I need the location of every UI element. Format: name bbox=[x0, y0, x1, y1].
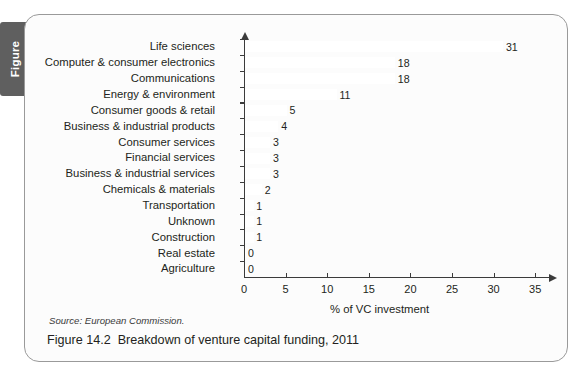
y-axis-tick bbox=[240, 182, 245, 183]
y-axis-tick bbox=[240, 198, 245, 199]
figure-caption-number: Figure 14.2 bbox=[47, 333, 111, 347]
x-axis-tick-label: 20 bbox=[404, 284, 416, 295]
y-axis-tick bbox=[240, 55, 245, 56]
category-label: Business & industrial products bbox=[64, 121, 215, 132]
y-axis-tick bbox=[240, 245, 245, 246]
category-label: Construction bbox=[152, 232, 215, 243]
bar-value-label: 1 bbox=[256, 216, 262, 227]
bar bbox=[245, 137, 270, 148]
x-axis-tick bbox=[494, 273, 495, 278]
x-axis-line bbox=[244, 277, 549, 278]
y-axis-tick bbox=[240, 150, 245, 151]
y-axis-tick bbox=[240, 261, 245, 262]
bar bbox=[245, 41, 503, 52]
bar-value-label: 1 bbox=[256, 232, 262, 243]
source-note: Source: European Commission. bbox=[49, 315, 184, 326]
x-axis-tick bbox=[410, 273, 411, 278]
x-axis-tick-label: 35 bbox=[529, 284, 541, 295]
bar-value-label: 5 bbox=[290, 105, 296, 116]
figure-caption-title: Breakdown of venture capital funding, 20… bbox=[118, 333, 359, 347]
y-axis-tick bbox=[240, 166, 245, 167]
bar bbox=[245, 121, 278, 132]
bar-value-label: 3 bbox=[273, 169, 279, 180]
category-label: Financial services bbox=[125, 152, 215, 163]
x-axis-tick-label: 10 bbox=[321, 284, 333, 295]
bar bbox=[245, 73, 395, 84]
bar-value-label: 11 bbox=[340, 90, 351, 101]
category-label: Agriculture bbox=[161, 263, 215, 274]
y-axis-tick bbox=[240, 214, 245, 215]
category-label: Energy & environment bbox=[103, 89, 215, 100]
bar bbox=[245, 248, 246, 259]
bar-chart: Life sciencesComputer & consumer electro… bbox=[25, 15, 569, 363]
category-label: Business & industrial services bbox=[66, 168, 215, 179]
category-label: Consumer goods & retail bbox=[91, 105, 215, 116]
x-axis-tick-label: 30 bbox=[487, 284, 499, 295]
y-axis-tick bbox=[240, 134, 245, 135]
plot-area: 311818115433321110005101520253035 bbox=[220, 31, 530, 289]
bar-value-label: 18 bbox=[398, 58, 410, 69]
bar-value-label: 0 bbox=[248, 264, 254, 275]
bar-value-label: 2 bbox=[265, 185, 271, 196]
x-axis-tick bbox=[535, 273, 536, 278]
category-label: Life sciences bbox=[150, 41, 215, 52]
figure-side-tab-label: Figure bbox=[9, 41, 21, 77]
x-axis-tick-label: 15 bbox=[363, 284, 375, 295]
bar-value-label: 1 bbox=[256, 201, 262, 212]
y-axis-tick bbox=[240, 87, 245, 88]
category-label: Unknown bbox=[168, 216, 215, 227]
y-axis-tick bbox=[240, 71, 245, 72]
bar-value-label: 3 bbox=[273, 137, 279, 148]
x-axis-tick bbox=[286, 273, 287, 278]
bar-value-label: 31 bbox=[506, 42, 518, 53]
bar bbox=[245, 89, 337, 100]
category-label: Computer & consumer electronics bbox=[45, 57, 215, 68]
x-axis-tick-label: 25 bbox=[446, 284, 458, 295]
category-label: Real estate bbox=[158, 248, 215, 259]
y-axis-tick bbox=[240, 39, 245, 40]
bar-value-label: 3 bbox=[273, 153, 279, 164]
bar-value-label: 4 bbox=[281, 121, 287, 132]
bar bbox=[245, 57, 395, 68]
bar bbox=[245, 232, 253, 243]
x-axis-tick bbox=[327, 273, 328, 278]
bar-value-label: 0 bbox=[248, 248, 254, 259]
y-axis-tick bbox=[240, 118, 245, 119]
bar bbox=[245, 184, 262, 195]
bar bbox=[245, 105, 287, 116]
category-label: Chemicals & materials bbox=[103, 184, 215, 195]
x-axis-tick bbox=[452, 273, 453, 278]
bar-value-label: 18 bbox=[398, 74, 410, 85]
bar bbox=[245, 168, 270, 179]
category-label: Communications bbox=[131, 73, 215, 84]
y-axis-tick bbox=[240, 102, 245, 103]
category-label: Transportation bbox=[143, 200, 215, 211]
x-axis-tick-label: 5 bbox=[283, 284, 289, 295]
figure-caption: Figure 14.2 Breakdown of venture capital… bbox=[47, 333, 359, 347]
x-axis-tick-label: 0 bbox=[241, 284, 247, 295]
bar bbox=[245, 216, 253, 227]
bar bbox=[245, 264, 246, 275]
bar bbox=[245, 200, 253, 211]
bar bbox=[245, 153, 270, 164]
figure-panel: Life sciencesComputer & consumer electro… bbox=[24, 14, 568, 362]
x-axis-title: % of VC investment bbox=[330, 303, 429, 315]
x-axis-tick bbox=[369, 273, 370, 278]
x-axis-arrow-icon bbox=[549, 274, 557, 282]
category-label: Consumer services bbox=[118, 137, 215, 148]
y-axis-tick bbox=[240, 229, 245, 230]
